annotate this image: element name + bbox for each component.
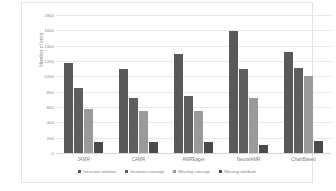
legend-item-label: Missing concept [178, 169, 209, 174]
x-axis-category-label: JAMR [77, 157, 90, 162]
bar[interactable] [84, 109, 93, 153]
bar[interactable] [194, 111, 203, 153]
x-axis-category-label: CAMR [132, 157, 146, 162]
y-axis-tick-label: 800 [47, 89, 54, 94]
legend-item-label: Incorrect relation [83, 169, 116, 174]
bar-group: NeuralAMR [221, 15, 276, 153]
bar[interactable] [284, 52, 293, 153]
bar[interactable] [314, 141, 323, 153]
bar[interactable] [119, 69, 128, 153]
bar[interactable] [74, 88, 83, 153]
chart-container: Number of error 020040060080010001200140… [21, 2, 313, 183]
bar-group: JAMR [56, 15, 111, 153]
bar[interactable] [229, 31, 238, 153]
bar-groups: JAMRCAMRAMREagerNeuralAMRChartBased [56, 15, 331, 153]
bar[interactable] [64, 63, 73, 153]
y-axis-tick-label: 400 [47, 120, 54, 125]
bar[interactable] [184, 96, 193, 154]
y-axis-tick-label: 600 [47, 105, 54, 110]
legend-swatch-icon [78, 170, 81, 173]
bar[interactable] [174, 54, 183, 153]
x-axis-category-label: NeuralAMR [237, 157, 261, 162]
legend-swatch-icon [173, 170, 176, 173]
y-axis-tick-label: 1800 [44, 13, 54, 18]
legend-item[interactable]: Missing attribute [219, 169, 256, 174]
legend-item-label: Missing attribute [224, 169, 256, 174]
plot-area: 020040060080010001200140016001800 JAMRCA… [56, 15, 331, 153]
bar[interactable] [139, 111, 148, 153]
bar[interactable] [249, 98, 258, 153]
bar-group: ChartBased [276, 15, 331, 153]
legend-item-label: Incorrect concept [130, 169, 164, 174]
y-axis-tick-label: 1200 [44, 59, 54, 64]
bar[interactable] [294, 68, 303, 153]
x-axis-category-label: ChartBased [291, 157, 315, 162]
bar[interactable] [204, 142, 213, 153]
legend-item[interactable]: Missing concept [173, 169, 210, 174]
bar-group: AMREager [166, 15, 221, 153]
y-axis-tick-label: 0 [52, 151, 54, 156]
bar-group: CAMR [111, 15, 166, 153]
x-axis-category-label: AMREager [182, 157, 204, 162]
bar[interactable] [94, 142, 103, 154]
bar[interactable] [149, 142, 158, 153]
axis-baseline [56, 153, 331, 154]
bar[interactable] [304, 76, 313, 153]
chart-legend: Incorrect relationIncorrect conceptMissi… [22, 169, 312, 174]
y-axis-tick-label: 1400 [44, 43, 54, 48]
legend-swatch-icon [125, 170, 128, 173]
legend-swatch-icon [219, 170, 222, 173]
y-axis-title: Number of error [39, 10, 44, 90]
y-axis-tick-label: 1000 [44, 74, 54, 79]
y-axis-tick-label: 200 [47, 135, 54, 140]
legend-item[interactable]: Incorrect concept [125, 169, 164, 174]
legend-item[interactable]: Incorrect relation [78, 169, 116, 174]
bar[interactable] [129, 98, 138, 153]
bar[interactable] [259, 145, 268, 153]
bar[interactable] [239, 69, 248, 153]
y-axis-tick-label: 1600 [44, 28, 54, 33]
